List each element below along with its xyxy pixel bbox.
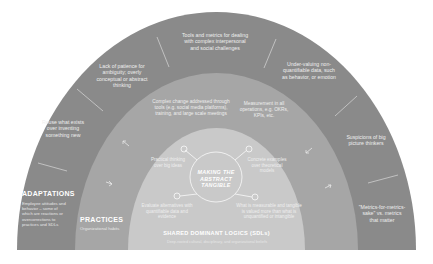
sdl-sublabel: Deep-rooted cultural, disciplinary, and …	[137, 240, 297, 245]
center-title-line: MAKING THE	[192, 169, 240, 176]
practice-item: Complex change addressed through tools (…	[148, 99, 234, 117]
adaptation-item: Tools and metrics for dealing with compl…	[181, 32, 249, 51]
center-title-line: ABSTRACT	[192, 176, 240, 183]
practices-label: PRACTICES	[80, 216, 123, 223]
logic-item: Evaluate alternatives with quantifiable …	[137, 203, 197, 220]
sdl-label: SHARED DOMINANT LOGICS (SDLs)	[140, 230, 293, 236]
logic-item: What is measurable and tangible is value…	[236, 203, 302, 220]
adaptations-sublabel: Employee attitudes and behavior – some o…	[22, 201, 68, 227]
adaptation-item: Reuse what exists over inventing somethi…	[40, 119, 86, 138]
practice-item: Measurement in all operations, e.g. OKRs…	[238, 101, 290, 119]
adaptation-item: Suspicions of big picture thinkers	[340, 134, 392, 147]
center-title: MAKING THE ABSTRACT TANGIBLE	[192, 169, 240, 189]
logic-item: Concrete examples over theoretical model…	[247, 157, 287, 174]
adaptation-item: Lack of patience for ambiguity; overly c…	[94, 63, 150, 89]
center-title-line: TANGIBLE	[192, 182, 240, 189]
adaptations-label: ADAPTATIONS	[22, 190, 75, 197]
practices-sublabel: Organizational habits	[80, 226, 124, 231]
adaptation-item: Under-valuing non-quantifiable data, suc…	[280, 61, 338, 80]
logic-item: Practical thinking over big ideas	[150, 157, 186, 168]
adaptation-item: "Metrics-for-metrics-sake" vs. metrics t…	[358, 204, 406, 223]
